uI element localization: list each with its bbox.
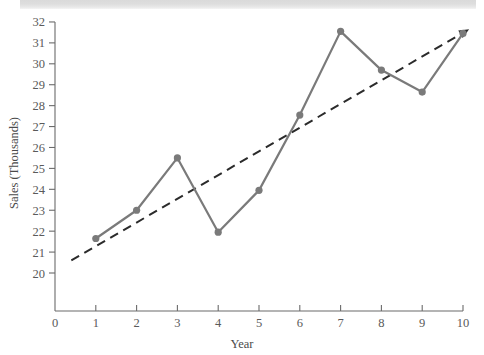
y-tick-label-27: 27 [33, 120, 46, 134]
y-tick-label-30: 30 [33, 57, 46, 71]
x-axis-title: Year [230, 337, 254, 351]
y-tick-label-20: 20 [33, 267, 46, 281]
x-tick-label-5: 5 [256, 316, 262, 330]
data-point-year-9 [419, 88, 426, 95]
y-tick-label-29: 29 [33, 78, 46, 92]
trend-line-group [71, 29, 469, 260]
x-tick-label-4: 4 [215, 316, 222, 330]
x-tick-label-9: 9 [419, 316, 425, 330]
data-point-year-8 [378, 66, 385, 73]
data-point-markers [92, 28, 466, 242]
y-tick-label-23: 23 [33, 204, 46, 218]
sales-data-line [96, 31, 463, 238]
x-tick-group: 012345678910 [52, 305, 469, 330]
y-tick-label-31: 31 [33, 36, 46, 50]
data-point-year-2 [133, 207, 140, 214]
y-tick-label-25: 25 [33, 162, 46, 176]
y-tick-label-24: 24 [33, 183, 46, 197]
x-tick-label-3: 3 [174, 316, 180, 330]
x-tick-label-2: 2 [133, 316, 139, 330]
data-point-year-10 [459, 30, 466, 37]
line-chart: 20212223242526272829303132 012345678910 … [0, 0, 484, 355]
data-point-year-4 [215, 229, 222, 236]
y-tick-group: 20212223242526272829303132 [33, 15, 56, 280]
y-tick-label-21: 21 [33, 246, 46, 260]
data-point-year-1 [92, 235, 99, 242]
y-tick-label-22: 22 [33, 225, 46, 239]
data-point-year-6 [296, 111, 303, 118]
y-tick-label-28: 28 [33, 99, 46, 113]
data-point-year-7 [337, 28, 344, 35]
data-series-group [92, 28, 466, 242]
x-tick-label-6: 6 [297, 316, 303, 330]
y-tick-label-32: 32 [33, 15, 46, 29]
axis-group [55, 22, 463, 311]
figure-root: 20212223242526272829303132 012345678910 … [0, 0, 484, 355]
x-tick-label-7: 7 [337, 316, 343, 330]
data-point-year-3 [174, 154, 181, 161]
x-tick-label-0: 0 [52, 316, 58, 330]
x-tick-label-1: 1 [93, 316, 99, 330]
y-tick-label-26: 26 [33, 141, 46, 155]
trend-line [71, 33, 463, 261]
data-point-year-5 [255, 187, 262, 194]
y-axis-title: Sales (Thousands) [7, 117, 21, 209]
x-tick-label-8: 8 [378, 316, 384, 330]
x-tick-label-10: 10 [457, 316, 470, 330]
